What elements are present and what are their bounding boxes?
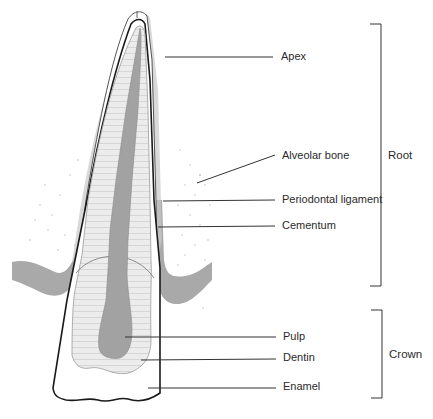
leader-cementum <box>158 226 275 227</box>
label-periodontal-ligament: Periodontal ligament <box>282 193 382 205</box>
leader-dentin <box>141 359 276 360</box>
group-label-root: Root <box>388 149 412 161</box>
label-cementum: Cementum <box>282 219 336 231</box>
label-dentin: Dentin <box>283 351 315 363</box>
leader-periodontal-ligament <box>163 200 275 201</box>
crown-bracket <box>371 310 382 398</box>
label-enamel: Enamel <box>283 380 320 392</box>
alveolar-bone-right <box>156 200 212 304</box>
group-label-crown: Crown <box>389 348 422 360</box>
label-alveolar-bone: Alveolar bone <box>282 149 349 161</box>
tooth-diagram <box>0 0 433 419</box>
label-apex: Apex <box>281 50 306 62</box>
leader-alveolar-bone <box>197 155 275 183</box>
root-bracket <box>370 24 381 286</box>
label-pulp: Pulp <box>283 330 305 342</box>
